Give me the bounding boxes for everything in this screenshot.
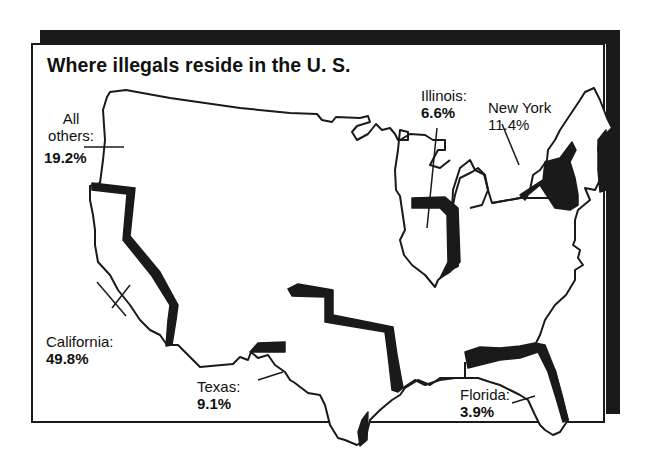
label-florida: Florida: 3.9% [460, 386, 510, 420]
label-new-york: New York 11.4% [488, 99, 551, 133]
new-england-shading [598, 130, 606, 192]
us-outline [90, 88, 612, 445]
label-texas: Texas: 9.1% [197, 378, 240, 412]
label-illinois: Illinois: 6.6% [421, 87, 467, 121]
label-all-others-value: 19.2% [44, 149, 87, 166]
label-all-others: All others: [44, 110, 98, 144]
label-california: California: 49.8% [46, 333, 114, 367]
us-map [0, 0, 659, 473]
texas-leader [258, 372, 283, 380]
illinois-leader [427, 128, 437, 228]
